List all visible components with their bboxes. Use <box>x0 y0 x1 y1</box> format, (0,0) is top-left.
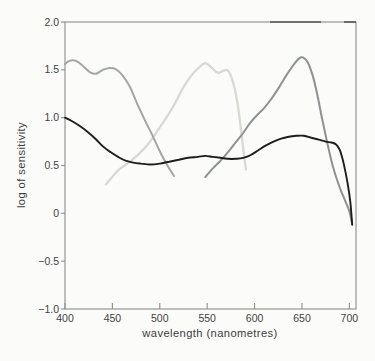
y-tick-label: −0.5 <box>38 255 59 267</box>
y-tick-label: 1.0 <box>44 111 59 123</box>
y-tick-label: 0.5 <box>44 159 59 171</box>
x-tick-label: 500 <box>151 312 169 324</box>
y-axis-title: log of sensitivity <box>15 122 27 208</box>
x-tick-label: 550 <box>198 312 216 324</box>
x-tick-label: 450 <box>104 312 122 324</box>
x-tick-label: 600 <box>246 312 264 324</box>
plot-frame <box>65 22 356 309</box>
curve-black-curve <box>65 118 352 225</box>
spectral-sensitivity-figure: 4004505005506006507002.01.51.00.50−0.5−1… <box>0 0 375 361</box>
y-tick-label: 0 <box>53 207 59 219</box>
x-tick-label: 700 <box>341 312 359 324</box>
chart-plot-area: 4004505005506006507002.01.51.00.50−0.5−1… <box>0 0 375 361</box>
y-tick-label: 1.5 <box>44 63 59 75</box>
y-tick-label: 2.0 <box>44 16 59 28</box>
x-tick-label: 650 <box>293 312 311 324</box>
x-axis-title: wavelength (nanometres) <box>60 327 360 339</box>
y-tick-label: −1.0 <box>38 303 59 315</box>
